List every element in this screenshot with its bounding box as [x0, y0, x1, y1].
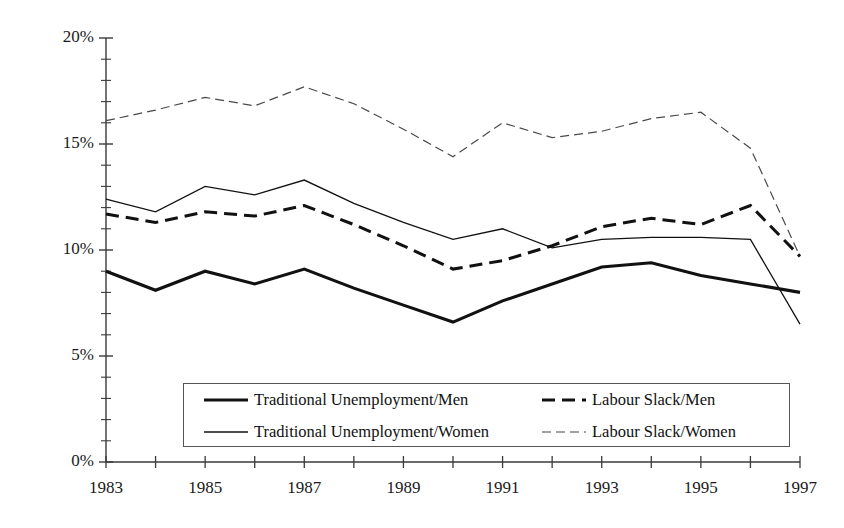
x-axis-tick-label: 1989 — [373, 478, 433, 498]
legend-label: Labour Slack/Men — [592, 392, 715, 409]
y-axis-tick-label: 10% — [63, 239, 94, 259]
x-axis-tick-label: 1983 — [76, 478, 136, 498]
legend-swatch-thick-solid-icon — [204, 393, 248, 407]
x-axis-tick-label: 1987 — [274, 478, 334, 498]
series-line — [106, 263, 800, 322]
legend-label: Traditional Unemployment/Women — [254, 424, 489, 441]
series-line — [106, 180, 800, 324]
y-axis-tick-label: 0% — [71, 451, 94, 471]
legend-entry-labour-slack-men: Labour Slack/Men — [542, 384, 715, 416]
x-axis-tick-label: 1985 — [175, 478, 235, 498]
x-axis-tick-label: 1995 — [671, 478, 731, 498]
chart-series-group — [106, 87, 800, 324]
legend-label: Traditional Unemployment/Men — [254, 392, 468, 409]
legend-row: Traditional Unemployment/Men Labour Slac… — [184, 384, 789, 416]
chart-legend: Traditional Unemployment/Men Labour Slac… — [183, 383, 790, 447]
legend-swatch-thick-dashed-icon — [542, 393, 586, 407]
x-axis-tick-label: 1991 — [473, 478, 533, 498]
x-axis-tick-label: 1997 — [770, 478, 830, 498]
legend-entry-traditional-unemployment-men: Traditional Unemployment/Men — [204, 384, 468, 416]
y-axis-tick-label: 5% — [71, 345, 94, 365]
y-axis-tick-label: 20% — [63, 27, 94, 47]
legend-swatch-thin-solid-icon — [204, 425, 248, 439]
chart-figure: 0%5%10%15%20% 19831985198719891991199319… — [0, 0, 844, 528]
x-axis-tick-label: 1993 — [572, 478, 632, 498]
chart-plot-area — [0, 0, 844, 528]
y-axis-tick-label: 15% — [63, 133, 94, 153]
legend-entry-traditional-unemployment-women: Traditional Unemployment/Women — [204, 416, 489, 448]
legend-entry-labour-slack-women: Labour Slack/Women — [542, 416, 736, 448]
legend-swatch-thin-fine-dashed-icon — [542, 425, 586, 439]
legend-row: Traditional Unemployment/Women Labour Sl… — [184, 416, 789, 448]
series-line — [106, 87, 800, 257]
legend-label: Labour Slack/Women — [592, 424, 736, 441]
